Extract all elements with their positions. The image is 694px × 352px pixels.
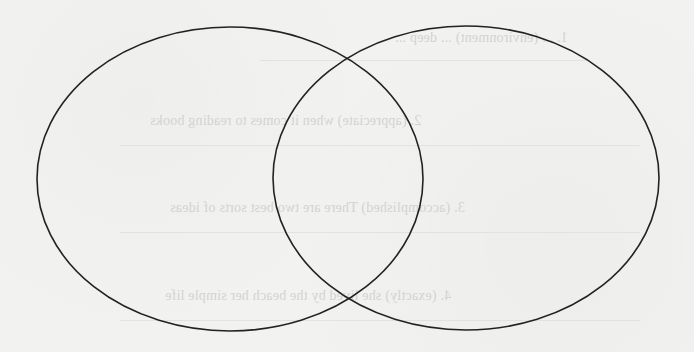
worksheet-page: 1. ... (environment) ... deep ... 2. (ap… xyxy=(0,0,694,352)
venn-diagram xyxy=(0,0,694,352)
venn-circle-right xyxy=(273,26,659,330)
venn-circle-left xyxy=(37,27,423,331)
